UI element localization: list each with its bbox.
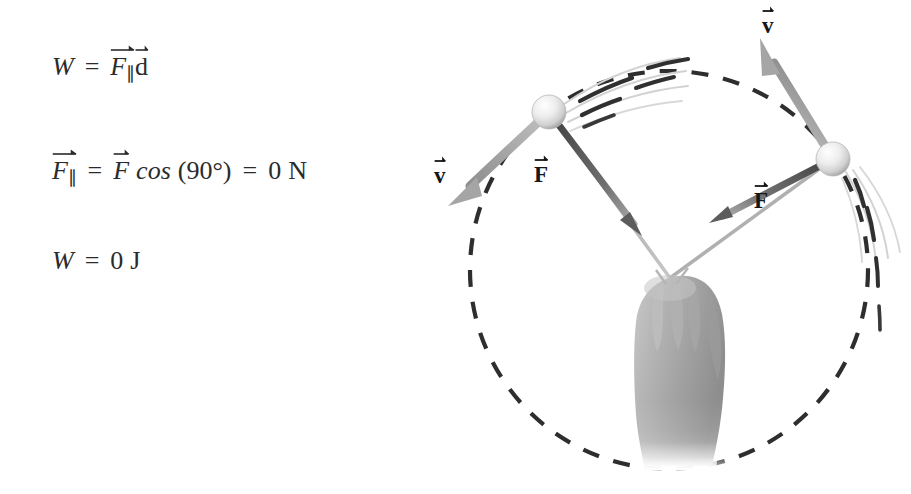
equation-work-result: W=0J (52, 248, 140, 274)
force-vector-symbol: F (534, 161, 548, 186)
force-left-label: F (534, 161, 548, 186)
displacement-vector-symbol: d (135, 52, 148, 80)
velocity-vector-symbol: v (434, 162, 446, 187)
equation-2-lhs-subscript: ∥ (68, 167, 77, 187)
equation-3-result: 0 (110, 246, 123, 275)
force-right-label-text: F (754, 189, 768, 212)
equation-2-angle: 90° (186, 156, 222, 185)
equation-2-force-symbol: F (113, 158, 129, 184)
equation-1-force-subscript: ∥ (126, 63, 135, 83)
string-right (670, 159, 833, 278)
ball-right (816, 142, 850, 176)
strings-group (549, 112, 833, 278)
velocity-left-label-text: v (434, 164, 446, 187)
circular-motion-illustration (430, 0, 911, 494)
physics-diagram-page: W=F∥d F∥=Fcos(90°)=0N W=0J (0, 0, 911, 494)
equation-1-force-symbol: F (110, 54, 126, 80)
force-vector-symbol: F (113, 156, 129, 184)
equation-2-close-paren: ) (223, 156, 232, 185)
equation-2-equals-2: = (243, 156, 258, 185)
force-right-label: F (754, 187, 768, 212)
force-vector-right (709, 159, 833, 223)
equation-1-lhs: W (52, 52, 74, 81)
equation-1-equals: = (85, 52, 100, 81)
equation-3-equals: = (85, 246, 100, 275)
velocity-vector-left (448, 112, 549, 206)
figure-panel: v v F F (430, 0, 911, 494)
force-parallel-vector-symbol: F∥ (110, 52, 135, 82)
velocity-left-label: v (434, 162, 446, 187)
vector-arrow-icon (110, 43, 136, 52)
equation-2-result: 0 (268, 156, 281, 185)
equation-2-lhs-symbol: F (52, 158, 68, 184)
force-vector-left (549, 112, 642, 236)
equation-2-unit: N (288, 156, 307, 185)
equation-3-lhs: W (52, 246, 74, 275)
equation-parallel-force: F∥=Fcos(90°)=0N (52, 156, 307, 186)
equation-2-function: cos (136, 156, 171, 185)
ball-left (532, 95, 566, 129)
equation-work-definition: W=F∥d (52, 52, 148, 82)
force-vector-symbol: F (754, 187, 768, 212)
force-left-label-text: F (534, 163, 548, 186)
equations-panel: W=F∥d F∥=Fcos(90°)=0N W=0J (0, 0, 430, 494)
vector-arrow-icon (113, 147, 130, 156)
equation-1-displacement-symbol: d (135, 54, 148, 80)
velocity-vector-right (760, 38, 833, 159)
velocity-vector-symbol: v (762, 12, 774, 37)
hand-gripping-strings (630, 275, 730, 476)
equation-3-unit: J (130, 246, 140, 275)
velocity-right-label-text: v (762, 14, 774, 37)
vector-arrow-icon (52, 147, 78, 156)
vector-arrow-icon (135, 43, 149, 52)
force-parallel-vector-symbol: F∥ (52, 156, 77, 186)
velocity-right-label: v (762, 12, 774, 37)
equation-2-equals: = (88, 156, 103, 185)
